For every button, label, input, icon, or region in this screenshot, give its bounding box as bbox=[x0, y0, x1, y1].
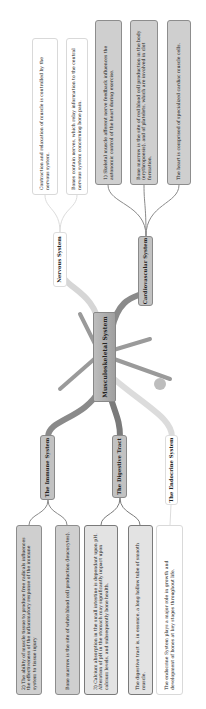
leaf-text: 3) Calcium absorption in the small intes… bbox=[93, 530, 110, 690]
branch-nervous-system[interactable]: Nervous System bbox=[53, 232, 67, 287]
mind-map: Musculoskeletal System Nervous System Co… bbox=[0, 0, 206, 709]
leaf-nervous-1[interactable]: Contraction and relaxation of muscle is … bbox=[32, 38, 58, 195]
central-node[interactable]: Musculoskeletal System bbox=[93, 312, 116, 402]
branch-immune-system[interactable]: The Immune System bbox=[40, 435, 55, 500]
leaf-text: Bone marrow is the site of white blood c… bbox=[65, 532, 71, 690]
leaf-text: Bones contain nerves, which relay inform… bbox=[71, 43, 82, 190]
leaf-digestive-1[interactable]: 3) Calcium absorption in the small intes… bbox=[84, 525, 118, 695]
branch-label: Cardiovascular System bbox=[143, 238, 149, 304]
leaf-endocrine-1[interactable]: The endocrine System plays a major role … bbox=[156, 525, 183, 695]
leaf-text: 1) Skeletal muscle afferent nerve feedba… bbox=[103, 25, 114, 180]
leaf-text: 2) The ability of muscle tissue to produ… bbox=[21, 530, 38, 690]
branch-endocrine-system[interactable]: The Endocrine System bbox=[165, 435, 178, 505]
branch-digestive-tract[interactable]: The Digestive Tract bbox=[112, 435, 127, 498]
branch-cardiovascular-system[interactable]: Cardiovascular System bbox=[138, 236, 153, 306]
leaf-immune-1[interactable]: 2) The ability of muscle tissue to produ… bbox=[16, 525, 42, 695]
central-node-label: Musculoskeletal System bbox=[102, 316, 108, 397]
leaf-digestive-2[interactable]: The digestive tract is, in essence, a lo… bbox=[128, 525, 153, 695]
leaf-cardiovascular-3[interactable]: The heart is comprised of specialized ca… bbox=[167, 20, 191, 185]
leaf-nervous-2[interactable]: Bones contain nerves, which relay inform… bbox=[66, 38, 88, 195]
branch-label: The Endocrine System bbox=[169, 437, 175, 502]
leaf-immune-2[interactable]: Bone marrow is the site of white blood c… bbox=[55, 525, 80, 695]
branch-label: The Digestive Tract bbox=[117, 438, 123, 495]
leaf-text: Contraction and relaxation of muscle is … bbox=[39, 43, 50, 190]
leaf-text: The heart is comprised of specialized ca… bbox=[176, 43, 182, 180]
leaf-text: The digestive tract is, in essence, a lo… bbox=[135, 530, 146, 690]
leaf-text: Bone marrow is the site of red blood cel… bbox=[136, 25, 153, 180]
leaf-text: The endocrine System plays a major role … bbox=[164, 530, 175, 690]
branch-label: The Immune System bbox=[45, 438, 51, 498]
leaf-cardiovascular-2[interactable]: Bone marrow is the site of red blood cel… bbox=[130, 20, 158, 185]
branch-label: Nervous System bbox=[57, 236, 63, 283]
leaf-cardiovascular-1[interactable]: 1) Skeletal muscle afferent nerve feedba… bbox=[95, 20, 122, 185]
